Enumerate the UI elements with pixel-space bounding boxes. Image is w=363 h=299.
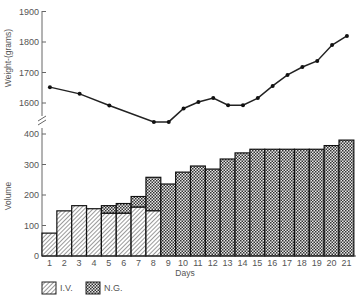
bar-ng xyxy=(324,146,339,256)
bar-ng xyxy=(101,206,116,214)
weight-tick-label: 1600 xyxy=(19,98,39,108)
day-tick-label: 13 xyxy=(223,258,233,268)
day-tick-label: 12 xyxy=(208,258,218,268)
weight-tick-label: 1700 xyxy=(19,68,39,78)
weight-point xyxy=(48,85,52,89)
day-tick-label: 19 xyxy=(312,258,322,268)
bar-ng xyxy=(250,149,265,256)
volume-axis-title: Volume xyxy=(3,182,13,211)
bar-ng xyxy=(220,159,235,256)
weight-point xyxy=(345,34,349,38)
bar-iv xyxy=(116,213,131,256)
weight-volume-chart: 1600170018001900 0100200300400 123456789… xyxy=(0,0,363,299)
volume-tick-label: 400 xyxy=(24,129,39,139)
day-tick-label: 3 xyxy=(77,258,82,268)
weight-point xyxy=(226,103,230,107)
volume-tick-label: 200 xyxy=(24,190,39,200)
bar-ng xyxy=(280,149,295,256)
bar-ng xyxy=(161,184,176,256)
day-tick-label: 8 xyxy=(151,258,156,268)
weight-point xyxy=(167,120,171,124)
legend-ng-swatch xyxy=(86,282,100,294)
weight-line-panel: 1600170018001900 xyxy=(19,7,349,126)
day-tick-label: 21 xyxy=(341,258,351,268)
bar-ng xyxy=(265,149,280,256)
weight-point xyxy=(286,73,290,77)
bar-ng xyxy=(205,169,220,256)
bar-ng xyxy=(191,166,206,256)
weight-point xyxy=(271,84,275,88)
weight-point xyxy=(315,59,319,63)
day-tick-label: 16 xyxy=(267,258,277,268)
weight-point xyxy=(256,96,260,100)
volume-tick-label: 0 xyxy=(34,251,39,261)
bar-iv xyxy=(72,206,87,256)
day-tick-label: 20 xyxy=(327,258,337,268)
legend-iv-swatch xyxy=(42,282,56,294)
weight-line xyxy=(50,36,347,122)
bar-ng xyxy=(176,172,191,256)
bar-ng xyxy=(116,204,131,214)
legend-ng-label: N.G. xyxy=(104,283,123,293)
day-tick-label: 15 xyxy=(252,258,262,268)
x-axis: 123456789101112131415161718192021 xyxy=(47,258,352,268)
weight-tick-label: 1900 xyxy=(19,7,39,17)
bar-ng xyxy=(131,197,146,208)
bar-ng xyxy=(146,177,161,211)
day-tick-label: 2 xyxy=(62,258,67,268)
weight-tick-label: 1800 xyxy=(19,37,39,47)
weight-axis-title: Weight-(grams) xyxy=(3,29,13,88)
bar-iv xyxy=(57,211,72,256)
bar-iv xyxy=(146,211,161,256)
legend: I.V. N.G. xyxy=(42,282,123,294)
day-tick-label: 5 xyxy=(106,258,111,268)
bar-ng xyxy=(309,149,324,256)
weight-point xyxy=(78,92,82,96)
bar-iv xyxy=(131,207,146,256)
weight-point xyxy=(211,96,215,100)
bar-iv xyxy=(87,209,102,256)
day-tick-label: 4 xyxy=(91,258,96,268)
bar-iv xyxy=(101,213,116,256)
weight-point xyxy=(330,43,334,47)
weight-point xyxy=(300,65,304,69)
weight-point xyxy=(152,120,156,124)
day-tick-label: 6 xyxy=(121,258,126,268)
volume-tick-label: 100 xyxy=(24,221,39,231)
bar-ng xyxy=(235,153,250,256)
volume-bar-panel: 0100200300400 xyxy=(24,128,356,261)
bar-iv xyxy=(42,233,57,256)
day-tick-label: 11 xyxy=(193,258,202,268)
day-tick-label: 7 xyxy=(136,258,141,268)
weight-point xyxy=(182,106,186,110)
bar-ng xyxy=(294,149,309,256)
day-tick-label: 18 xyxy=(297,258,307,268)
weight-point xyxy=(107,103,111,107)
day-tick-label: 10 xyxy=(178,258,188,268)
legend-iv-label: I.V. xyxy=(60,283,73,293)
weight-point xyxy=(196,100,200,104)
day-tick-label: 1 xyxy=(47,258,52,268)
weight-point xyxy=(241,103,245,107)
x-axis-title: Days xyxy=(175,268,194,278)
day-tick-label: 14 xyxy=(237,258,247,268)
day-tick-label: 9 xyxy=(166,258,171,268)
bar-ng xyxy=(339,140,354,256)
volume-tick-label: 300 xyxy=(24,160,39,170)
day-tick-label: 17 xyxy=(282,258,292,268)
